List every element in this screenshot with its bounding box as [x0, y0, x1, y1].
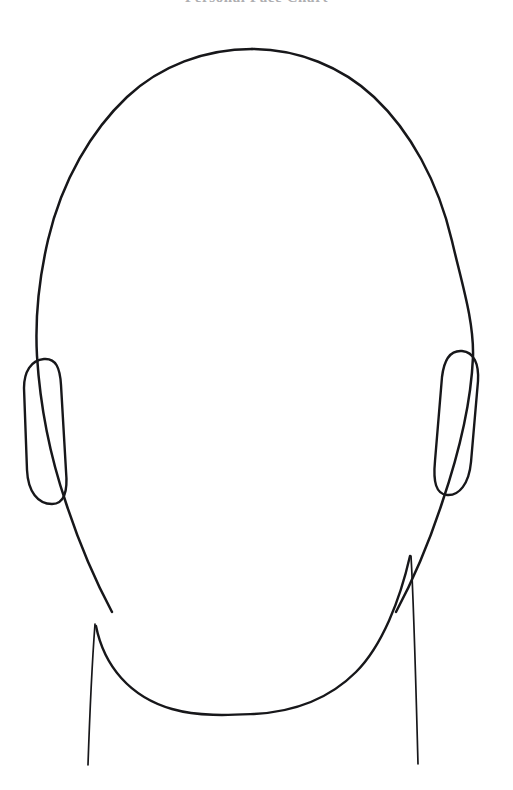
jawline-path [96, 556, 410, 715]
face-chart-page: Personal Face Chart [0, 0, 513, 790]
head-outline-right-path [252, 49, 473, 612]
face-chart-drawing [0, 0, 513, 790]
left-neck-line-path [88, 624, 95, 765]
head-outline-left-path [36, 49, 252, 612]
face-outline-svg [0, 0, 513, 790]
right-neck-line-path [411, 556, 418, 764]
